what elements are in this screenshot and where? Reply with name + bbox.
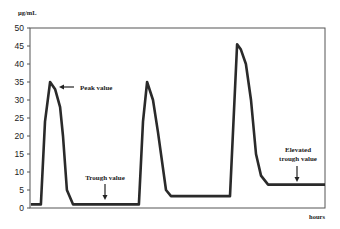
x-axis-label: hours [309,213,325,220]
peak-arrow-head [59,85,64,90]
y-tick-label: 0 [19,203,24,213]
peak-label: Peak value [80,84,112,92]
y-axis-unit-label: µg/mL [18,9,37,16]
trough-arrow-head [103,195,108,200]
y-tick-label: 10 [15,167,25,177]
y-tick-label: 30 [15,95,25,105]
elevated-trough-label-line2: trough value [279,155,317,163]
y-tick-label: 20 [15,131,25,141]
y-tick-label: 40 [15,59,25,69]
y-tick-label: 45 [15,41,25,51]
y-tick-label: 5 [19,185,24,195]
y-tick-label: 50 [15,23,25,33]
trough-label: Trough value [85,174,125,182]
y-tick-label: 15 [15,149,25,159]
elevated-trough-arrow-head [295,177,300,182]
y-tick-label: 25 [15,113,25,123]
plot-frame [30,28,325,208]
series-line-concentration [31,44,325,204]
y-axis: 05101520253035404550 [15,23,30,213]
elevated-trough-label-line1: Elevated [285,146,311,154]
y-tick-label: 35 [15,77,25,87]
chart: µg/mL 05101520253035404550 Peak value Tr… [0,0,340,229]
